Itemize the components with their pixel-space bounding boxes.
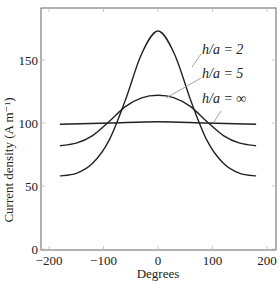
series-label-2: h/a = 5 [202, 66, 243, 81]
x-tick-label: 100 [203, 253, 223, 268]
y-tick-label: 0 [32, 242, 39, 257]
y-tick-label: 150 [19, 53, 39, 68]
x-tick-label: −100 [90, 253, 117, 268]
leader-line-1 [192, 54, 201, 67]
y-tick-label: 50 [25, 179, 38, 194]
series-annotations: h/a = 2h/a = 5h/a = ∞ [166, 42, 246, 122]
y-axis-ticks: 050100150 [19, 53, 277, 257]
x-tick-label: 200 [257, 253, 277, 268]
x-axis-title: Degrees [137, 266, 180, 281]
current-density-chart: −200−1000100200 050100150 h/a = 2h/a = 5… [0, 0, 280, 282]
series-line-3 [60, 122, 256, 125]
y-axis-title: Current density (A m⁻¹) [1, 97, 16, 222]
leader-line-3 [214, 111, 221, 122]
series-label-1: h/a = 2 [202, 42, 243, 57]
series-label-3: h/a = ∞ [202, 91, 246, 106]
y-tick-label: 100 [19, 116, 39, 131]
x-tick-label: −200 [36, 253, 63, 268]
